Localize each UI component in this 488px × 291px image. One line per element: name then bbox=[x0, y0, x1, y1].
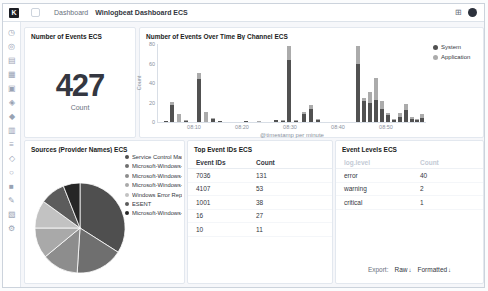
bar[interactable] bbox=[204, 112, 208, 122]
bar-segment-application bbox=[287, 46, 291, 60]
legend-dot-icon bbox=[125, 164, 129, 168]
maps-icon[interactable]: ◈ bbox=[9, 99, 15, 107]
bar[interactable] bbox=[374, 78, 378, 122]
kibana-logo-icon[interactable]: K bbox=[9, 8, 19, 18]
table-cell: 11 bbox=[256, 226, 324, 233]
bar[interactable] bbox=[386, 113, 390, 122]
x-axis-tick: 08:40 bbox=[331, 124, 345, 130]
bar[interactable] bbox=[302, 112, 306, 122]
logs-icon[interactable]: ≡ bbox=[9, 141, 14, 149]
table-row: warning2 bbox=[336, 183, 483, 197]
management-icon[interactable]: ⚙ bbox=[8, 225, 15, 233]
bar[interactable] bbox=[398, 113, 402, 122]
bar-plot: Count @timestamp per minute 02040608008:… bbox=[157, 44, 426, 123]
bar[interactable] bbox=[380, 101, 384, 122]
discover-icon[interactable]: ◎ bbox=[8, 43, 15, 51]
legend-dot-icon bbox=[125, 174, 129, 178]
x-axis-tick: 08:30 bbox=[283, 124, 297, 130]
bar[interactable] bbox=[211, 118, 215, 122]
legend-item[interactable]: Application bbox=[433, 54, 470, 60]
bar[interactable] bbox=[316, 119, 320, 122]
space-switcher-button[interactable] bbox=[31, 8, 40, 17]
bar[interactable] bbox=[177, 114, 181, 122]
bar-segment-system bbox=[356, 64, 360, 123]
bar[interactable] bbox=[356, 46, 360, 122]
download-icon: ↓ bbox=[408, 267, 411, 273]
uptime-icon[interactable]: ○ bbox=[9, 169, 14, 177]
bar-segment-system bbox=[281, 121, 285, 122]
canvas-icon[interactable]: ▣ bbox=[8, 85, 16, 93]
bar[interactable] bbox=[415, 119, 419, 122]
legend-label: Microsoft-Windows-... bbox=[132, 210, 182, 216]
legend-item[interactable]: Microsoft-Windows-... bbox=[125, 173, 182, 179]
bar[interactable] bbox=[170, 102, 174, 122]
machine-learning-icon[interactable]: ◆ bbox=[9, 113, 15, 121]
export-label: Export: bbox=[368, 266, 389, 273]
table-row: 100138 bbox=[188, 196, 332, 210]
panel-title: Number of Events Over Time By Channel EC… bbox=[140, 28, 483, 40]
bar[interactable] bbox=[287, 46, 291, 122]
bar-segment-application bbox=[204, 112, 208, 122]
bar[interactable] bbox=[368, 92, 372, 122]
bar[interactable] bbox=[244, 121, 248, 122]
table-cell: 1 bbox=[420, 199, 475, 206]
legend-label: Application bbox=[441, 54, 470, 60]
legend-item[interactable]: Service Control Man... bbox=[125, 154, 182, 160]
legend-label: Microsoft-Windows-... bbox=[132, 173, 182, 179]
legend-dot-icon bbox=[433, 45, 438, 50]
stack-monitoring-icon[interactable]: ▧ bbox=[8, 211, 16, 219]
bar[interactable] bbox=[420, 114, 424, 122]
panel-number-of-events: Number of Events ECS 427 Count bbox=[24, 27, 136, 138]
dashboard-icon[interactable]: ▦ bbox=[8, 71, 16, 79]
breadcrumb-current-page: Winlogbeat Dashboard ECS bbox=[95, 9, 188, 16]
bar[interactable] bbox=[218, 121, 222, 122]
bar-segment-system bbox=[415, 120, 419, 122]
panel-title: Event Levels ECS bbox=[336, 141, 483, 153]
bar[interactable] bbox=[274, 120, 278, 122]
user-avatar[interactable] bbox=[468, 8, 477, 17]
apm-icon[interactable]: ◇ bbox=[9, 155, 15, 163]
legend-label: ESENT bbox=[132, 201, 182, 207]
bar[interactable] bbox=[309, 105, 313, 122]
apps-menu-icon[interactable]: ⊞ bbox=[455, 9, 462, 17]
legend-item[interactable]: Microsoft-Windows-... bbox=[125, 182, 182, 188]
table-cell: 53 bbox=[256, 185, 324, 192]
table-cell: 10 bbox=[196, 226, 256, 233]
visualize-icon[interactable]: ▤ bbox=[8, 57, 16, 65]
panel-top-event-ids: Top Event IDs ECS Event IDs Count 703613… bbox=[187, 140, 333, 284]
legend-item[interactable]: Microsoft-Windows-... bbox=[125, 210, 182, 216]
bar[interactable] bbox=[362, 98, 366, 122]
legend-item[interactable]: System bbox=[433, 44, 470, 50]
table-header: Event IDs Count bbox=[188, 156, 332, 169]
table-cell: 40 bbox=[420, 172, 475, 179]
siem-icon[interactable]: ■ bbox=[9, 183, 14, 191]
legend-item[interactable]: Windows Error Repo... bbox=[125, 192, 182, 198]
bar-segment-system bbox=[218, 121, 222, 122]
legend-label: Service Control Man... bbox=[132, 154, 182, 160]
bar[interactable] bbox=[164, 121, 168, 122]
dev-tools-icon[interactable]: ✎ bbox=[8, 197, 15, 205]
breadcrumb-dashboard-link[interactable]: Dashboard bbox=[54, 9, 88, 16]
bar-segment-system bbox=[211, 119, 215, 122]
bar[interactable] bbox=[257, 121, 261, 122]
bar-segment-system bbox=[164, 121, 168, 122]
download-icon: ↓ bbox=[448, 267, 451, 273]
table-cell: 38 bbox=[256, 199, 324, 206]
bar[interactable] bbox=[392, 119, 396, 122]
legend-dot-icon bbox=[125, 202, 129, 206]
export-formatted-link[interactable]: Formatted↓ bbox=[417, 266, 451, 273]
bar[interactable] bbox=[294, 120, 298, 122]
bar[interactable] bbox=[184, 120, 188, 122]
legend-item[interactable]: ESENT bbox=[125, 201, 182, 207]
chart-legend: SystemApplication bbox=[433, 44, 470, 60]
export-raw-link[interactable]: Raw↓ bbox=[394, 266, 411, 273]
infrastructure-icon[interactable]: ▥ bbox=[8, 127, 16, 135]
bar-segment-system bbox=[294, 121, 298, 122]
bar[interactable] bbox=[404, 104, 408, 123]
bar[interactable] bbox=[281, 120, 285, 122]
bar[interactable] bbox=[197, 73, 201, 122]
bar-segment-system bbox=[316, 120, 320, 122]
legend-item[interactable]: Microsoft-Windows-... bbox=[125, 163, 182, 169]
recently-viewed-icon[interactable]: ◷ bbox=[8, 29, 15, 37]
bar[interactable] bbox=[410, 117, 414, 122]
